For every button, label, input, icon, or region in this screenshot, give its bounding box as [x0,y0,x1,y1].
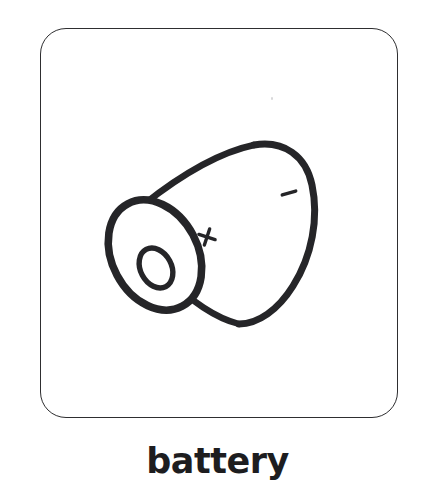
page-title: battery [0,440,435,482]
battery-illustration [40,28,398,418]
battery-drawing [40,28,398,418]
scan-artifact-speck [271,97,273,100]
flashcard: battery [0,0,435,485]
